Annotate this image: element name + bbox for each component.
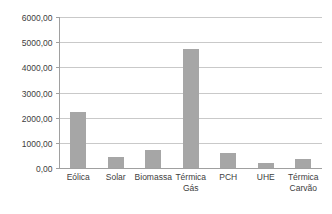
x-tick-label-line: Térmica [288,172,319,182]
x-tick-label: PCH [219,172,237,182]
x-tick-label-line: Solar [106,172,126,182]
y-tick-label: 6000,00 [22,13,53,23]
bar [70,112,86,168]
y-tick-label: 0,00 [36,164,53,174]
x-tick-label: Solar [106,172,126,182]
x-tick-label-line: PCH [219,172,237,182]
y-tick-label: 3000,00 [22,89,53,99]
y-tick-label: 1000,00 [22,139,53,149]
y-tick-label: 2000,00 [22,114,53,124]
x-tick-label-line: Carvão [290,183,318,193]
x-tick-label-line: UHE [257,172,275,182]
bar-chart: 0,001000,002000,003000,004000,005000,006… [0,0,332,214]
bar [183,49,199,168]
tick-marks-group [56,18,60,169]
x-tick-label: Biomassa [135,172,173,182]
bar [258,163,274,168]
bar [295,159,311,168]
bar [145,150,161,168]
x-tick-label: TérmicaGás [175,172,206,193]
chart-canvas: 0,001000,002000,003000,004000,005000,006… [0,0,332,214]
bar [220,153,236,168]
x-tick-label: Eólica [67,172,90,182]
bar [108,157,124,168]
x-tick-label: UHE [257,172,275,182]
x-tick-label-line: Térmica [175,172,206,182]
x-tick-labels-group: EólicaSolarBiomassaTérmicaGásPCHUHETérmi… [67,172,319,193]
y-tick-label: 5000,00 [22,38,53,48]
x-tick-label-line: Biomassa [135,172,173,182]
x-tick-label: TérmicaCarvão [288,172,319,193]
y-tick-label: 4000,00 [22,63,53,73]
x-tick-label-line: Eólica [67,172,90,182]
y-tick-labels-group: 0,001000,002000,003000,004000,005000,006… [22,13,53,174]
x-tick-label-line: Gás [183,183,199,193]
bars-group [70,49,311,168]
